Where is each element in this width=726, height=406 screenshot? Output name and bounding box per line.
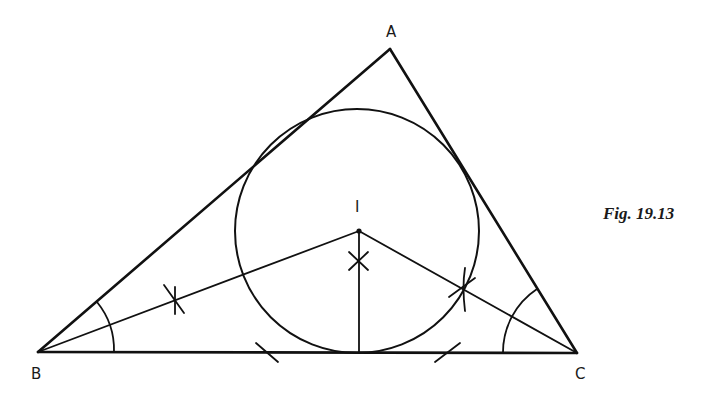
figure-caption: Fig. 19.13	[603, 204, 674, 224]
bisector-from-B	[38, 231, 359, 352]
bisector-from-C	[359, 231, 577, 353]
incentre-label-I: I	[355, 200, 359, 215]
diagram-canvas	[0, 0, 726, 406]
side-BC	[38, 352, 577, 353]
incircle-construction-figure: A B C I Fig. 19.13	[0, 0, 726, 406]
incentre-point	[356, 228, 361, 233]
side-AB	[38, 49, 390, 352]
side-AC	[390, 49, 577, 353]
vertex-label-A: A	[386, 25, 396, 40]
bisector-mark-B	[164, 285, 184, 314]
vertex-label-C: C	[575, 367, 585, 382]
vertex-label-B: B	[31, 367, 41, 382]
